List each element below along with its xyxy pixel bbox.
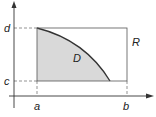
label-rectangle-r: R (132, 36, 140, 48)
label-d: d (4, 22, 11, 34)
y-axis-arrow-icon (12, 1, 17, 8)
diagram: d c a b D R (0, 0, 156, 117)
x-axis-arrow-icon (146, 94, 154, 99)
label-a: a (34, 100, 40, 112)
label-region-d: D (73, 52, 81, 64)
label-c: c (4, 75, 10, 87)
label-b: b (123, 100, 129, 112)
